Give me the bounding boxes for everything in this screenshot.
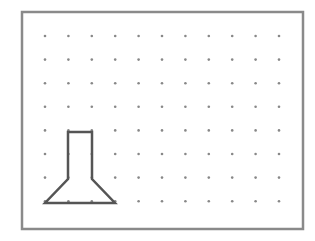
grid-dot bbox=[161, 58, 164, 61]
grid-dot bbox=[161, 82, 164, 85]
grid-dot bbox=[231, 153, 234, 156]
grid-dot bbox=[231, 129, 234, 132]
grid-dot bbox=[44, 129, 47, 132]
grid-dot bbox=[184, 58, 187, 61]
grid-dot bbox=[208, 58, 211, 61]
grid-dot bbox=[137, 176, 140, 179]
flask-shape bbox=[45, 132, 115, 203]
grid-dot bbox=[91, 82, 94, 85]
grid-dot bbox=[208, 129, 211, 132]
grid-dot bbox=[137, 106, 140, 109]
grid-dot bbox=[91, 58, 94, 61]
grid-dot bbox=[114, 35, 117, 38]
grid-frame bbox=[22, 12, 303, 229]
grid-dot bbox=[208, 35, 211, 38]
grid-dot bbox=[91, 35, 94, 38]
grid-dot bbox=[161, 176, 164, 179]
grid-dot bbox=[114, 58, 117, 61]
grid-dot bbox=[254, 200, 257, 203]
grid-dot bbox=[231, 176, 234, 179]
grid-dot bbox=[278, 82, 281, 85]
grid-dot bbox=[278, 106, 281, 109]
grid-dot bbox=[278, 200, 281, 203]
grid-dot bbox=[137, 200, 140, 203]
grid-dot bbox=[91, 106, 94, 109]
grid-dot bbox=[254, 176, 257, 179]
grid-dot bbox=[161, 200, 164, 203]
grid-dot bbox=[208, 200, 211, 203]
grid-dot bbox=[44, 35, 47, 38]
grid-dot bbox=[114, 129, 117, 132]
grid-dot bbox=[161, 129, 164, 132]
grid-dot bbox=[278, 129, 281, 132]
grid-dot bbox=[278, 35, 281, 38]
grid-dot bbox=[67, 106, 70, 109]
grid-dot bbox=[114, 106, 117, 109]
grid-dot bbox=[137, 82, 140, 85]
grid-dot bbox=[184, 35, 187, 38]
grid-dot bbox=[137, 58, 140, 61]
grid-dot bbox=[208, 82, 211, 85]
grid-dot bbox=[44, 176, 47, 179]
grid-dot bbox=[67, 82, 70, 85]
grid-dot bbox=[67, 35, 70, 38]
grid-dot bbox=[44, 106, 47, 109]
grid-dot bbox=[184, 129, 187, 132]
grid-dot bbox=[278, 176, 281, 179]
grid-dot bbox=[254, 35, 257, 38]
grid-dot bbox=[254, 129, 257, 132]
grid-dot bbox=[278, 153, 281, 156]
grid-dot bbox=[254, 153, 257, 156]
grid-dot bbox=[137, 35, 140, 38]
grid-dot bbox=[184, 82, 187, 85]
grid-dot bbox=[114, 176, 117, 179]
grid-dot bbox=[254, 106, 257, 109]
grid-dot bbox=[231, 35, 234, 38]
grid-dot bbox=[67, 58, 70, 61]
grid-dot bbox=[254, 58, 257, 61]
grid-dot bbox=[254, 82, 257, 85]
grid-dot bbox=[231, 200, 234, 203]
grid-dot bbox=[137, 153, 140, 156]
grid-dot bbox=[44, 153, 47, 156]
grid-dot bbox=[184, 176, 187, 179]
grid-dot bbox=[208, 106, 211, 109]
grid-dot bbox=[231, 58, 234, 61]
grid-dot bbox=[184, 106, 187, 109]
grid-dot bbox=[114, 82, 117, 85]
grid-dot bbox=[208, 176, 211, 179]
dot-grid-diagram bbox=[0, 0, 315, 241]
dot-grid bbox=[44, 35, 281, 203]
grid-dot bbox=[231, 106, 234, 109]
grid-dot bbox=[208, 153, 211, 156]
grid-dot bbox=[114, 153, 117, 156]
grid-dot bbox=[44, 82, 47, 85]
grid-dot bbox=[278, 58, 281, 61]
grid-dot bbox=[161, 106, 164, 109]
grid-dot bbox=[231, 82, 234, 85]
grid-dot bbox=[137, 129, 140, 132]
grid-dot bbox=[184, 153, 187, 156]
grid-dot bbox=[161, 153, 164, 156]
grid-dot bbox=[184, 200, 187, 203]
grid-dot bbox=[44, 58, 47, 61]
grid-dot bbox=[161, 35, 164, 38]
